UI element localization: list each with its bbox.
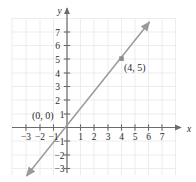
origin-point-label: (0, 0) [32, 110, 54, 122]
x-tick-label: −3 [21, 132, 31, 142]
x-axis-label: x [186, 124, 192, 134]
y-tick-label: 6 [55, 41, 60, 51]
axes [12, 8, 181, 173]
y-tick-label: −2 [54, 151, 64, 161]
x-tick-label: 4 [119, 132, 124, 142]
y-tick-label: 2 [55, 96, 60, 106]
y-tick-label: −1 [54, 137, 64, 147]
x-tick-label: −2 [35, 132, 45, 142]
x-tick-label: 2 [92, 132, 97, 142]
y-tick-label: 1 [60, 110, 65, 120]
coordinate-plane-figure: −3 −2 −1 1 2 3 4 5 6 7 7 6 5 4 3 2 1 −1 … [0, 0, 196, 182]
graph-canvas: −3 −2 −1 1 2 3 4 5 6 7 7 6 5 4 3 2 1 −1 … [0, 0, 196, 182]
data-point-label: (4, 5) [124, 62, 146, 74]
grid-lines [12, 18, 176, 175]
x-tick-label: 5 [133, 132, 138, 142]
y-tick-label: −3 [54, 164, 64, 174]
y-tick-label: 3 [55, 82, 60, 92]
x-tick-label: 1 [78, 132, 83, 142]
y-axis-label: y [56, 6, 62, 16]
y-tick-label: 4 [55, 69, 60, 79]
data-point-marker [119, 56, 124, 61]
y-tick-label: 5 [55, 55, 60, 65]
x-tick-label: 7 [160, 132, 165, 142]
y-tick-label: 7 [55, 28, 60, 38]
x-tick-label: 6 [146, 132, 151, 142]
x-tick-label: 3 [106, 132, 111, 142]
